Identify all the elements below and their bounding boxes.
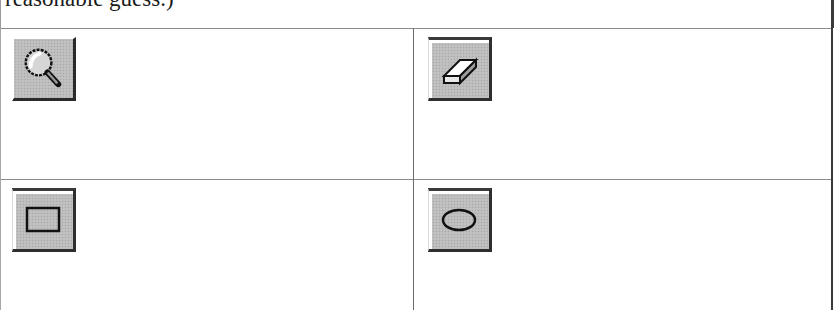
magnifier-button[interactable] (12, 37, 76, 101)
eraser-button[interactable] (428, 37, 492, 101)
rectangle-icon (13, 191, 73, 249)
eraser-icon (429, 40, 489, 98)
ellipse-icon (429, 191, 489, 249)
table-cell-magnifier (1, 29, 413, 179)
ellipse-button[interactable] (428, 188, 492, 252)
table-cell-ellipse (414, 180, 831, 310)
caption-text: reasonable guess.) (5, 0, 174, 12)
caption-cell: reasonable guess.) (0, 0, 834, 28)
table-right-border (831, 0, 833, 310)
rectangle-button[interactable] (12, 188, 76, 252)
magnifier-icon (14, 39, 73, 98)
table-cell-eraser (414, 29, 831, 179)
table-cell-rectangle (1, 180, 413, 310)
